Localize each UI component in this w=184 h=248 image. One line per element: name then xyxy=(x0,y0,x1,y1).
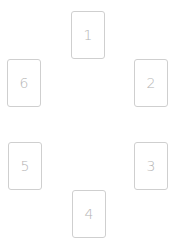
card-number: 4 xyxy=(85,207,94,221)
card-number: 1 xyxy=(84,28,93,42)
card-number: 5 xyxy=(21,159,30,173)
card-position-1[interactable]: 1 xyxy=(71,11,105,59)
card-number: 3 xyxy=(147,159,156,173)
card-position-4[interactable]: 4 xyxy=(72,190,106,238)
card-position-6[interactable]: 6 xyxy=(7,59,41,107)
card-number: 6 xyxy=(20,76,29,90)
card-number: 2 xyxy=(147,76,156,90)
card-position-3[interactable]: 3 xyxy=(134,142,168,190)
card-position-5[interactable]: 5 xyxy=(8,142,42,190)
card-position-2[interactable]: 2 xyxy=(134,59,168,107)
